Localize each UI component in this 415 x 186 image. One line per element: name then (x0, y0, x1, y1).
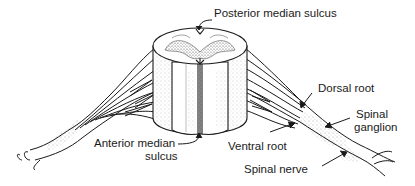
label-anterior-median-sulcus-line1: Anterior median (94, 137, 175, 150)
label-ventral-root: Ventral root (228, 140, 287, 153)
spinal-cord-diagram: Posterior median sulcus Dorsal root Spin… (0, 0, 415, 186)
label-dorsal-root: Dorsal root (318, 82, 374, 95)
label-spinal-ganglion-line2: ganglion (354, 121, 397, 134)
label-spinal-nerve: Spinal nerve (244, 163, 308, 176)
spinal-cord (153, 28, 247, 134)
label-posterior-median-sulcus: Posterior median sulcus (214, 7, 337, 20)
label-spinal-ganglion-line1: Spinal (356, 108, 388, 121)
label-anterior-median-sulcus-line2: sulcus (145, 150, 178, 163)
left-spinal-nerve (17, 48, 158, 170)
